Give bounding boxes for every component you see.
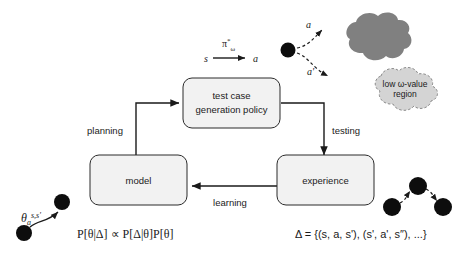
dataset-formula: Δ = {(s, a, s'), (s', a', s″), ...} — [295, 228, 427, 240]
policy-symbol-group: π*ω — [222, 37, 236, 53]
cloud-light-label-line2: region — [393, 89, 417, 99]
trajectory-dot-left — [383, 198, 401, 216]
trajectory-dot-top — [409, 177, 427, 195]
action-a-label: a — [306, 19, 311, 30]
cloud-light-label-line1: low ω-value — [383, 79, 428, 89]
action-a-prime-label: a' — [307, 66, 315, 77]
edge-label-planning: planning — [87, 125, 123, 136]
diagram-canvas: low ω-value region a a' π*ω s a — [0, 0, 470, 258]
bayes-formula: P[θ|Δ] ∝ P[Δ|θ]P[θ] — [77, 227, 173, 241]
trajectory-arrow-top-to-right — [426, 189, 437, 201]
node-experience[interactable]: experience — [277, 155, 374, 205]
node-test-case-generation-policy[interactable]: test case generation policy — [183, 78, 280, 128]
policy-state-symbol: s — [204, 53, 208, 64]
cloud-dark-shape — [346, 13, 411, 61]
edge-label-testing: testing — [332, 125, 360, 136]
trajectory-arrow-left-to-top — [400, 191, 410, 203]
policy-star-superscript: * — [227, 37, 231, 45]
edge-testing-arrow — [281, 103, 324, 155]
policy-omega-subscript: ω — [231, 45, 236, 53]
theta-label-group: θas,s' — [21, 211, 41, 227]
trajectory-dot-right — [434, 198, 452, 216]
policy-box-label-line1: test case — [212, 90, 250, 101]
cloud-low-omega-region: low ω-value region — [375, 67, 437, 110]
agent-dot — [281, 43, 296, 58]
diagram-svg: low ω-value region a a' π*ω s a — [0, 0, 470, 258]
policy-box-label-line2: generation policy — [196, 104, 268, 115]
policy-annotation: π*ω s a — [204, 37, 258, 64]
theta-transition-group: θas,s' — [16, 194, 70, 241]
action-a-arrow — [297, 30, 322, 48]
trajectory-dots-group — [383, 177, 452, 216]
theta-superscript: s,s' — [31, 211, 41, 220]
edge-label-learning: learning — [213, 197, 247, 208]
experience-box-label: experience — [302, 175, 348, 186]
model-box-label: model — [126, 175, 152, 186]
theta-source-dot — [16, 225, 32, 241]
cloud-dark-region — [346, 13, 411, 61]
agent-action-group: a a' — [281, 19, 329, 77]
node-model[interactable]: model — [90, 155, 187, 205]
edge-planning-arrow — [136, 103, 179, 155]
policy-action-symbol: a — [253, 53, 258, 64]
theta-target-dot — [54, 194, 70, 210]
